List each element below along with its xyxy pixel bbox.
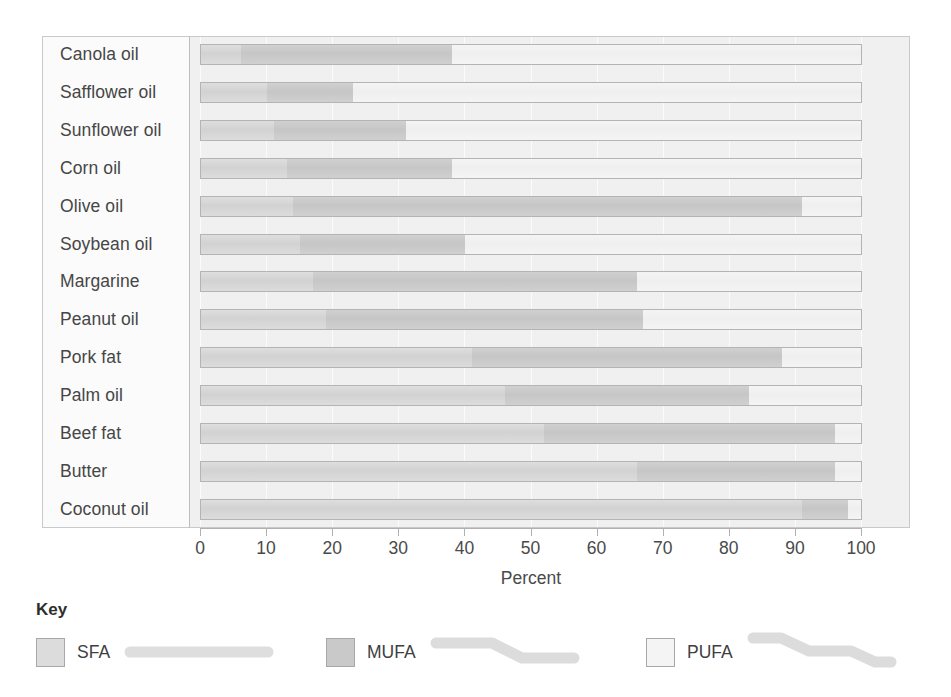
category-label: Corn oil [42,158,190,179]
stacked-bar [200,461,862,482]
bar-segment-sfa [201,121,274,140]
category-label: Margarine [42,271,190,292]
axis-tick-label: 60 [587,538,606,559]
bar-segment-pufa [465,235,861,254]
axis-tick-label: 90 [785,538,804,559]
stacked-bar [200,499,862,520]
bar-segment-sfa [201,424,544,443]
bar-area [190,339,910,377]
bar-area [190,452,910,490]
bar-area [190,263,910,301]
bar-segment-mufa [274,121,406,140]
two-bend-chain-icon [747,630,897,674]
bar-area [190,36,910,74]
bar-area [190,74,910,112]
bar-segment-pufa [637,272,861,291]
axis-tick-label: 10 [256,538,275,559]
bar-segment-mufa [544,424,834,443]
bar-segment-sfa [201,310,326,329]
stacked-bar [200,347,862,368]
legend: Key SFAMUFAPUFA [36,600,926,690]
bar-segment-pufa [452,45,861,64]
bar-segment-pufa [749,386,861,405]
axis-tick-label: 30 [389,538,408,559]
stacked-bar [200,309,862,330]
axis-tick [795,528,796,536]
stacked-bar [200,82,862,103]
legend-swatch-mufa [326,638,355,667]
axis-tick [332,528,333,536]
axis-tick [531,528,532,536]
category-label: Palm oil [42,385,190,406]
bar-row: Canola oil [42,36,910,74]
bar-segment-pufa [782,348,861,367]
stacked-bar [200,271,862,292]
bar-rows: Canola oilSafflower oilSunflower oilCorn… [42,36,910,528]
bar-segment-sfa [201,348,472,367]
stacked-bar [200,423,862,444]
bar-row: Butter [42,452,910,490]
bar-segment-mufa [802,500,848,519]
chart-root: Canola oilSafflower oilSunflower oilCorn… [0,0,951,697]
bar-segment-mufa [300,235,465,254]
category-label: Canola oil [42,44,190,65]
bar-area [190,225,910,263]
stacked-bar [200,44,862,65]
category-label: Butter [42,461,190,482]
stacked-bar [200,158,862,179]
axis-tick [597,528,598,536]
bar-area [190,112,910,150]
x-axis-title: Percent [190,568,872,589]
category-label: Peanut oil [42,309,190,330]
bar-area [190,377,910,415]
bar-row: Margarine [42,263,910,301]
bar-segment-mufa [293,197,801,216]
bar-area [190,187,910,225]
axis-tick [398,528,399,536]
legend-label: PUFA [687,642,733,663]
legend-label: MUFA [367,642,416,663]
stacked-bar [200,234,862,255]
bar-segment-pufa [643,310,861,329]
category-label: Sunflower oil [42,120,190,141]
bar-segment-mufa [472,348,782,367]
legend-item-sfa: SFA [36,630,326,674]
x-axis: 0102030405060708090100 Percent [190,528,910,588]
bar-area [190,414,910,452]
bar-row: Corn oil [42,150,910,188]
category-label: Olive oil [42,196,190,217]
axis-tick [200,528,201,536]
bar-segment-mufa [326,310,643,329]
bar-row: Soybean oil [42,225,910,263]
bar-segment-mufa [287,159,452,178]
bar-segment-sfa [201,159,287,178]
bar-segment-pufa [835,462,861,481]
bar-row: Pork fat [42,339,910,377]
bar-segment-mufa [313,272,636,291]
bar-segment-pufa [353,83,861,102]
stacked-bar [200,385,862,406]
bar-row: Sunflower oil [42,112,910,150]
bar-area [190,301,910,339]
bar-segment-sfa [201,235,300,254]
bar-segment-pufa [452,159,861,178]
axis-tick-label: 40 [455,538,474,559]
axis-tick-label: 50 [521,538,540,559]
bar-segment-pufa [835,424,861,443]
axis-tick [464,528,465,536]
bar-segment-mufa [505,386,749,405]
axis-tick [861,528,862,536]
category-label: Safflower oil [42,82,190,103]
bar-segment-mufa [267,83,353,102]
category-label: Soybean oil [42,234,190,255]
category-label: Pork fat [42,347,190,368]
legend-item-pufa: PUFA [646,630,926,674]
category-label: Coconut oil [42,499,190,520]
axis-tick-label: 100 [846,538,875,559]
legend-items: SFAMUFAPUFA [36,630,926,674]
bar-segment-sfa [201,272,313,291]
one-bend-chain-icon [430,630,580,674]
legend-title: Key [36,600,926,620]
bar-segment-pufa [406,121,861,140]
legend-swatch-sfa [36,638,65,667]
